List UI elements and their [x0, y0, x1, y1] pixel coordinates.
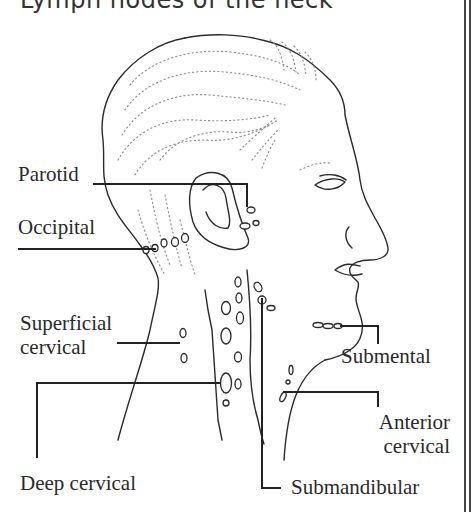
submandibular-leader — [262, 298, 281, 488]
parotid-leader — [93, 184, 247, 207]
label-submental: Submental — [341, 345, 431, 367]
deep-cervical-node — [222, 302, 231, 315]
neck-back — [205, 290, 222, 440]
anterior-cervical-node — [289, 366, 293, 375]
label-deep-cervical: Deep cervical — [20, 472, 136, 494]
eye — [315, 179, 345, 189]
lips — [335, 264, 362, 275]
superficial-cervical-node — [180, 329, 186, 338]
lymph-nodes-diagram: Lymph nodes of the neck — [0, 0, 472, 512]
label-superficial-cervical-line1: Superficial — [20, 312, 112, 334]
label-superficial-cervical-line2: cervical — [20, 336, 86, 358]
anterior-cervical-leader — [283, 392, 378, 407]
submandibular-node — [252, 281, 263, 293]
label-anterior-cervical-line2: cervical — [364, 435, 450, 457]
label-submandibular: Submandibular — [291, 476, 419, 498]
label-parotid: Parotid — [18, 163, 79, 185]
neck-front — [284, 360, 325, 460]
submental-node — [313, 323, 323, 328]
parotid-node — [247, 207, 255, 213]
deep-cervical-leader — [37, 383, 220, 458]
label-anterior-cervical-line1: Anterior — [364, 411, 450, 433]
label-occipital: Occipital — [18, 216, 95, 238]
face-profile — [185, 35, 388, 360]
